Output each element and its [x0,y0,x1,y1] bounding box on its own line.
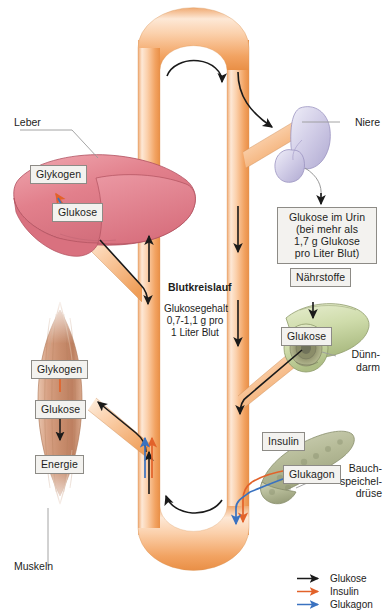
chip-naehrstoffe: Nährstoffe [290,268,351,287]
diagram-canvas: Leber Niere Dünn-darm Bauch-speichel-drü… [0,0,385,616]
bloodstream-title: Blutkreislauf [168,281,232,293]
chip-muscle-glykogen: Glykogen [31,360,88,379]
legend-swatch-insulin [296,586,326,597]
organ-label-kidney: Niere [355,116,380,129]
chip-kidney-urine-note: Glukose im Urin(bei mehr als1,7 g Glukos… [277,207,377,264]
ureter-line [305,168,321,196]
chip-liver-glukose: Glukose [52,203,103,222]
legend-label-glukose: Glukose [326,573,367,584]
legend-label-insulin: Insulin [326,586,359,597]
organ-label-liver: Leber [14,116,41,129]
legend-swatch-glukagon [296,599,326,610]
organ-label-muscle: Muskeln [14,560,53,573]
legend-row-insulin: Insulin [296,585,382,598]
legend-row-glukose: Glukose [296,572,382,585]
organ-label-intestine: Dünn-darm [326,348,380,373]
chip-intestine-glukose: Glukose [281,327,332,346]
legend-swatch-glukose [296,573,326,584]
bloodstream-subtitle: Glukosegehalt0,7-1,1 g pro1 Liter Blut [164,303,226,339]
legend-label-glukagon: Glukagon [326,599,373,610]
legend-row-glukagon: Glukagon [296,598,382,611]
legend: Glukose Insulin Glukagon [296,572,382,611]
chip-liver-glykogen: Glykogen [30,165,87,184]
chip-glukagon: Glukagon [283,465,341,484]
chip-insulin: Insulin [262,432,305,451]
chip-muscle-energie: Energie [35,455,84,474]
chip-muscle-glukose: Glukose [35,400,86,419]
